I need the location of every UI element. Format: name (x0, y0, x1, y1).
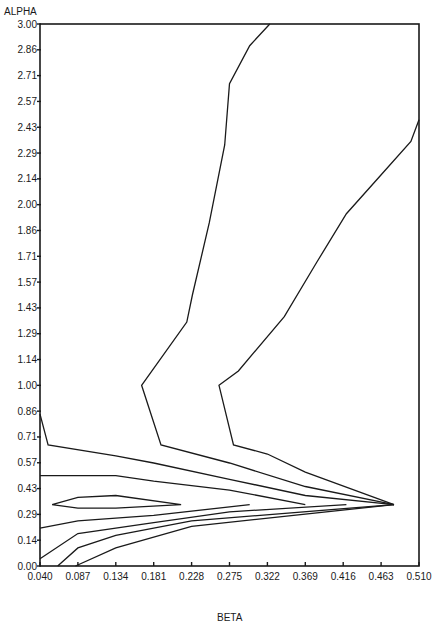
y-tick-label: 1.71 (18, 251, 38, 262)
y-axis-title: ALPHA (4, 6, 37, 17)
y-tick-label: 0.57 (18, 457, 38, 468)
y-axis-ticks: 0.000.140.290.430.570.710.861.001.141.29… (18, 19, 41, 572)
x-tick-label: 0.416 (331, 571, 356, 582)
x-tick-label: 0.463 (369, 571, 394, 582)
y-tick-label: 3.00 (18, 19, 38, 30)
contour-4 (40, 505, 250, 528)
y-tick-label: 2.57 (18, 96, 38, 107)
y-tick-label: 1.00 (18, 380, 38, 391)
x-tick-label: 0.040 (27, 571, 52, 582)
x-tick-label: 0.275 (217, 571, 242, 582)
y-tick-label: 0.14 (18, 535, 38, 546)
contour-2 (40, 476, 305, 505)
y-tick-label: 2.86 (18, 44, 38, 55)
x-axis-ticks: 0.0400.0870.1340.1810.2280.2750.3220.369… (27, 562, 431, 582)
y-tick-label: 0.86 (18, 406, 38, 417)
x-tick-label: 0.369 (293, 571, 318, 582)
y-tick-label: 1.29 (18, 328, 38, 339)
y-tick-label: 0.29 (18, 509, 38, 520)
y-tick-label: 1.57 (18, 277, 38, 288)
contour-lines (40, 24, 419, 566)
contour-6 (58, 505, 394, 566)
contour-chart: 0.0400.0870.1340.1810.2280.2750.3220.369… (0, 0, 443, 636)
y-tick-label: 2.00 (18, 199, 38, 210)
x-tick-label: 0.134 (103, 571, 128, 582)
x-tick-label: 0.510 (406, 571, 431, 582)
plot-border (40, 24, 419, 566)
y-tick-label: 2.71 (18, 70, 38, 81)
y-tick-label: 2.43 (18, 122, 38, 133)
contour-8 (142, 24, 394, 505)
y-tick-label: 1.14 (18, 354, 38, 365)
y-tick-label: 0.00 (18, 561, 38, 572)
y-tick-label: 1.86 (18, 225, 38, 236)
x-tick-label: 0.228 (179, 571, 204, 582)
y-tick-label: 0.71 (18, 431, 38, 442)
y-tick-label: 2.29 (18, 148, 38, 159)
contour-7 (76, 505, 395, 566)
y-tick-label: 2.14 (18, 173, 38, 184)
x-tick-label: 0.087 (65, 571, 90, 582)
plot-frame (40, 24, 419, 566)
x-tick-label: 0.322 (255, 571, 280, 582)
contour-3 (52, 496, 181, 509)
x-tick-label: 0.181 (141, 571, 166, 582)
y-tick-label: 0.43 (18, 483, 38, 494)
chart-canvas: 0.0400.0870.1340.1810.2280.2750.3220.369… (0, 0, 443, 636)
y-tick-label: 1.43 (18, 302, 38, 313)
contour-9 (219, 120, 419, 505)
x-axis-title: BETA (217, 612, 242, 623)
